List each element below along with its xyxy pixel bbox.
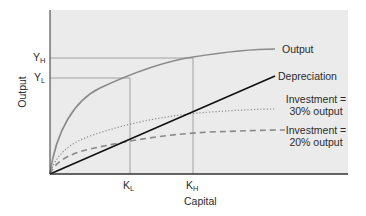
x-tick-kh-sub: H (193, 184, 198, 193)
output-series-label: Output (282, 43, 314, 55)
investment-20-label-line2: 20% output (279, 136, 353, 148)
y-axis-title: Output (16, 72, 28, 112)
x-axis-title: Capital (184, 195, 217, 207)
investment-20-label-line1: Investment = (279, 124, 353, 136)
y-tick-yl-sub: L (41, 76, 45, 85)
investment-30-label: Investment = 30% output (279, 93, 353, 117)
y-tick-yl-main: Y (34, 71, 41, 83)
plot-area (50, 10, 348, 174)
x-tick-kh: KH (186, 179, 198, 195)
y-tick-yh: YH (33, 51, 45, 67)
investment-30-label-line1: Investment = (279, 93, 353, 105)
x-tick-kl: KL (123, 179, 134, 195)
investment-30-label-line2: 30% output (279, 105, 353, 117)
y-tick-yl: YL (34, 71, 45, 87)
y-tick-yh-sub: H (40, 56, 45, 65)
investment-20-label: Investment = 20% output (279, 124, 353, 148)
x-tick-kl-main: K (123, 179, 130, 191)
x-tick-kl-sub: L (130, 184, 134, 193)
x-tick-kh-main: K (186, 179, 193, 191)
depreciation-series-label: Depreciation (278, 70, 337, 82)
y-tick-yh-main: Y (33, 51, 40, 63)
